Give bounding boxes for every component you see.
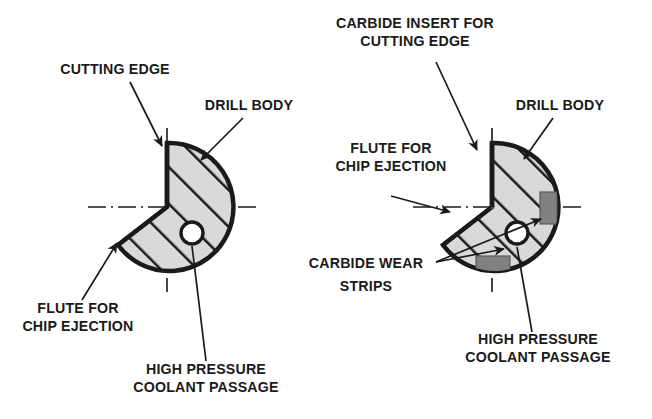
label-carbide-wear-line1: CARBIDE WEAR (309, 255, 423, 271)
label-drill-body-right: DRILL BODY (516, 97, 605, 113)
left-leader-flute (82, 243, 117, 300)
right-leader-drill-body (524, 118, 553, 159)
label-carbide-wear-line2: STRIPS (340, 278, 392, 294)
label-flute-line2-left: CHIP EJECTION (22, 318, 133, 334)
diagram-canvas: CUTTING EDGE DRILL BODY FLUTE FOR CHIP E… (0, 0, 652, 419)
label-drill-body-left: DRILL BODY (205, 97, 294, 113)
right-leader-carbide-insert (436, 62, 477, 150)
label-flute-line2-right: CHIP EJECTION (335, 158, 446, 174)
left-leader-cutting-edge (130, 82, 162, 146)
left-leader-drill-body (201, 118, 243, 160)
left-drill-group: CUTTING EDGE DRILL BODY FLUTE FOR CHIP E… (22, 61, 293, 395)
label-coolant-line2-right: COOLANT PASSAGE (465, 349, 610, 365)
label-carbide-insert-line1: CARBIDE INSERT FOR (336, 15, 494, 31)
label-carbide-insert-line2: CUTTING EDGE (360, 33, 470, 49)
carbide-wear-strip-right (540, 192, 557, 224)
label-coolant-line2-left: COOLANT PASSAGE (133, 379, 278, 395)
label-cutting-edge-left: CUTTING EDGE (60, 61, 170, 77)
label-flute-line1-right: FLUTE FOR (350, 140, 431, 156)
drill-cross-section-figure: CUTTING EDGE DRILL BODY FLUTE FOR CHIP E… (0, 0, 652, 419)
label-coolant-line1-right: HIGH PRESSURE (478, 331, 598, 347)
right-leader-flute (391, 196, 450, 212)
left-coolant-passage-hole (181, 222, 203, 244)
label-flute-line1-left: FLUTE FOR (37, 300, 118, 316)
right-drill-group: CARBIDE INSERT FOR CUTTING EDGE DRILL BO… (309, 15, 611, 365)
label-coolant-line1-left: HIGH PRESSURE (146, 361, 266, 377)
